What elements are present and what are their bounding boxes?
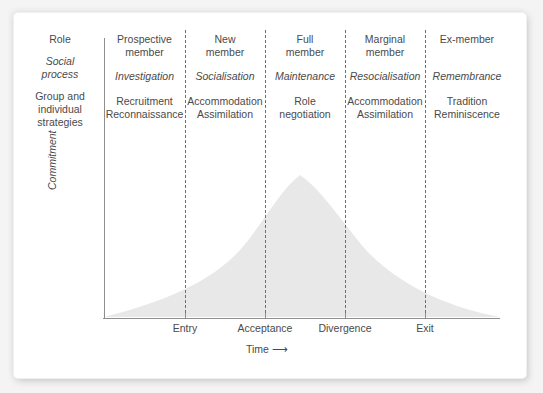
column-2-role: New member bbox=[185, 33, 265, 59]
y-axis-label: Commitment bbox=[46, 130, 58, 190]
column-new-member: New member Socialisation Accommodation A… bbox=[185, 33, 265, 121]
commitment-curve-area bbox=[104, 175, 500, 317]
row-label-social-line2: process bbox=[20, 68, 100, 81]
divider-exit bbox=[425, 30, 426, 318]
x-tick-label-entry: Entry bbox=[173, 322, 198, 334]
column-ex-member: Ex-member Remembrance Tradition Reminisc… bbox=[425, 33, 509, 121]
column-4-strategies: Accommodation Assimilation bbox=[345, 95, 425, 121]
divider-entry bbox=[185, 30, 186, 318]
x-tick-label-divergence: Divergence bbox=[318, 322, 371, 334]
column-5-process: Remembrance bbox=[425, 70, 509, 83]
x-tick-divergence bbox=[345, 313, 346, 318]
column-3-role: Full member bbox=[265, 33, 345, 59]
column-marginal-member: Marginal member Resocialisation Accommod… bbox=[345, 33, 425, 121]
x-axis-line bbox=[103, 318, 500, 319]
column-4-role: Marginal member bbox=[345, 33, 425, 59]
arrow-right-icon: ⟶ bbox=[272, 343, 287, 355]
x-tick-acceptance bbox=[265, 313, 266, 318]
x-tick-entry bbox=[185, 313, 186, 318]
x-axis-label: Time ⟶ bbox=[246, 343, 287, 355]
column-1-process: Investigation bbox=[104, 70, 185, 83]
row-label-strategies-line3: strategies bbox=[20, 116, 100, 129]
figure-stage: Role Social process Group and individual… bbox=[0, 0, 543, 393]
group-socialisation-diagram: Role Social process Group and individual… bbox=[0, 0, 543, 393]
column-full-member: Full member Maintenance Role negotiation bbox=[265, 33, 345, 121]
column-5-role: Ex-member bbox=[425, 33, 509, 46]
row-label-role-text: Role bbox=[20, 33, 100, 46]
x-tick-label-acceptance: Acceptance bbox=[238, 322, 293, 334]
row-label-column: Role Social process Group and individual… bbox=[20, 33, 100, 129]
column-3-process: Maintenance bbox=[265, 70, 345, 83]
row-label-strategies-line2: individual bbox=[20, 103, 100, 116]
column-1-role: Prospective member bbox=[104, 33, 185, 59]
row-label-social-line1: Social bbox=[20, 55, 100, 68]
row-label-role: Role bbox=[20, 33, 100, 46]
divider-acceptance bbox=[265, 30, 266, 318]
divider-divergence bbox=[345, 30, 346, 318]
column-2-strategies: Accommodation Assimilation bbox=[185, 95, 265, 121]
row-label-social-process: Social process bbox=[20, 55, 100, 81]
column-1-strategies: Recruitment Reconnaissance bbox=[104, 95, 185, 121]
column-2-process: Socialisation bbox=[185, 70, 265, 83]
label-column-divider bbox=[104, 38, 105, 318]
column-prospective-member: Prospective member Investigation Recruit… bbox=[104, 33, 185, 121]
column-5-strategies: Tradition Reminiscence bbox=[425, 95, 509, 121]
x-tick-exit bbox=[425, 313, 426, 318]
column-3-strategies: Role negotiation bbox=[265, 95, 345, 121]
column-4-process: Resocialisation bbox=[345, 70, 425, 83]
row-label-strategies: Group and individual strategies bbox=[20, 90, 100, 129]
row-label-strategies-line1: Group and bbox=[20, 90, 100, 103]
x-axis-label-text: Time bbox=[246, 343, 269, 355]
x-tick-label-exit: Exit bbox=[416, 322, 434, 334]
